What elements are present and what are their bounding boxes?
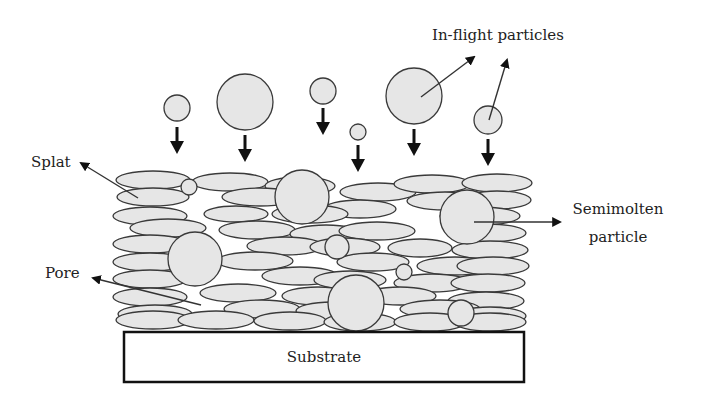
in-flight-particles — [164, 68, 502, 140]
thermal-spray-diagram: In-flight particles Splat Pore Semimolte… — [0, 0, 706, 405]
semimolten-label-line1: Semimolten — [568, 200, 668, 218]
in-flight-particles-label: In-flight particles — [432, 26, 564, 44]
splat-label: Splat — [31, 153, 71, 171]
fall-arrows — [170, 108, 495, 172]
substrate-label: Substrate — [124, 332, 524, 382]
pore-label: Pore — [45, 264, 80, 282]
semimolten-label-line2: particle — [568, 228, 668, 246]
